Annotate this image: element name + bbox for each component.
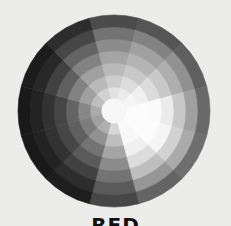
- wheel-cell: [149, 99, 162, 124]
- wheel-center: [102, 99, 127, 124]
- wheel-cell: [102, 63, 127, 76]
- wheel-cell: [66, 99, 79, 124]
- wheel-cell: [54, 95, 68, 126]
- color-wheel: [0, 0, 231, 226]
- wheel-cell: [172, 92, 186, 129]
- wheel-cell: [98, 157, 129, 171]
- wheel-cell: [95, 39, 132, 53]
- wheel-caption: RED: [0, 215, 231, 226]
- wheel-cell: [95, 169, 132, 183]
- wheel-cell: [160, 95, 174, 126]
- wheel-cell: [98, 51, 129, 65]
- wheel-cell: [42, 92, 56, 129]
- wheel-cell: [102, 146, 127, 159]
